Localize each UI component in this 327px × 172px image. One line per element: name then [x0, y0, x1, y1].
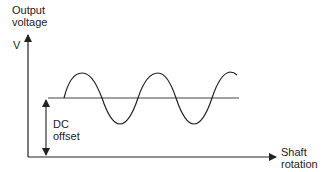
y-axis-label-line2: voltage	[12, 16, 47, 28]
x-axis-label-line2: rotation	[281, 158, 318, 170]
y-axis-unit: V	[13, 39, 20, 51]
x-axis-label-line1: Shaft	[281, 146, 307, 158]
diagram-graphics	[0, 0, 327, 172]
y-axis-label-line1: Output	[12, 4, 45, 16]
dc-offset-label-line1: DC	[53, 118, 69, 130]
dc-offset-label-line2: offset	[53, 130, 80, 142]
diagram: Output voltage V DC offset Shaft rotatio…	[0, 0, 327, 172]
